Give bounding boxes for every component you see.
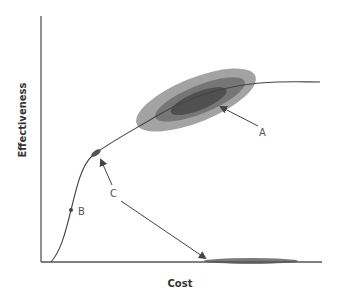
label-b: B [78,206,85,217]
region-a-ellipses [128,56,263,145]
label-a: A [259,127,266,138]
arrow-a [221,107,258,126]
cost-effectiveness-diagram: B A C Cost Effectiveness [0,0,341,297]
x-axis-title: Cost [168,278,193,289]
y-axis-title: Effectiveness [17,82,28,157]
point-b [69,208,73,212]
region-c-flat-ellipse [204,258,298,264]
label-c: C [110,188,117,199]
arrow-c-up [101,160,112,185]
arrow-c-down [121,201,205,258]
